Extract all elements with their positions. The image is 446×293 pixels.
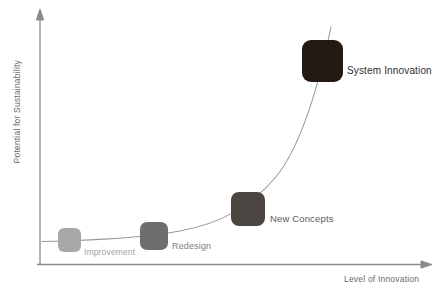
node-box-new-concepts[interactable] [231,192,265,226]
x-axis-label: Level of Innovation [344,274,419,284]
node-box-improvement[interactable] [58,228,81,252]
node-box-redesign[interactable] [140,222,168,250]
diagram-canvas: Improvement Redesign New Concepts System… [0,0,446,293]
y-axis-label: Potential for Sustainability [12,60,22,163]
node-label-new-concepts: New Concepts [270,213,334,224]
node-label-system-innovation: System Innovation [347,65,432,76]
node-label-improvement: Improvement [84,247,135,257]
exponential-trend-curve [42,27,331,242]
node-label-redesign: Redesign [172,241,211,251]
node-box-system-innovation[interactable] [302,40,343,82]
